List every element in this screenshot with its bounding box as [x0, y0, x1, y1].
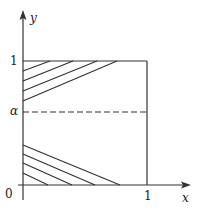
- y-axis-label: y: [30, 12, 37, 24]
- diagram-canvas: [0, 0, 200, 211]
- y-tick-one: 1: [10, 55, 18, 67]
- origin-label: 0: [5, 188, 13, 200]
- lower-hatch-region: [23, 145, 120, 185]
- x-axis-label: x: [182, 192, 189, 204]
- upper-hatch-region: [23, 61, 117, 101]
- diagram: y x 0 1 1 α: [0, 0, 200, 211]
- alpha-label: α: [10, 105, 18, 117]
- x-tick-one: 1: [144, 190, 152, 202]
